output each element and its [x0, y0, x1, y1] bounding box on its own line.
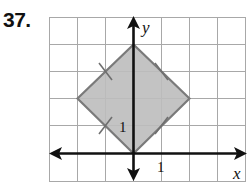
coordinate-graph: y x 1 1	[0, 0, 250, 196]
x-tick-label: 1	[157, 159, 165, 175]
y-tick-label: 1	[119, 119, 127, 135]
y-axis-label: y	[140, 18, 150, 37]
x-axis-label: x	[232, 164, 241, 183]
